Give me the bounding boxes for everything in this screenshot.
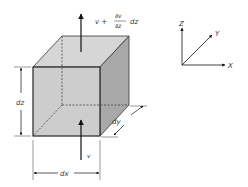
svg-text:∂z: ∂z [115,22,122,29]
flow-out-label: v + ∂v ∂z dz [95,12,138,29]
dx-dimension: dx [33,140,100,180]
flow-in-label: v [87,152,91,159]
svg-text:∂v: ∂v [115,12,122,19]
svg-text:dx: dx [60,170,69,178]
svg-text:dz: dz [16,99,24,107]
svg-text:dy: dy [112,118,121,126]
svg-text:Z: Z [178,20,184,28]
y-axis [182,35,212,65]
svg-text:Y: Y [215,30,220,38]
svg-text:X: X [227,62,233,70]
control-volume-diagram: v + ∂v ∂z dz v dz dx dy Z X Y [0,0,248,187]
svg-text:v +: v + [95,18,107,26]
svg-text:dz: dz [130,18,138,26]
axis-triad: Z X Y [178,20,233,70]
dz-dimension: dz [14,67,31,136]
